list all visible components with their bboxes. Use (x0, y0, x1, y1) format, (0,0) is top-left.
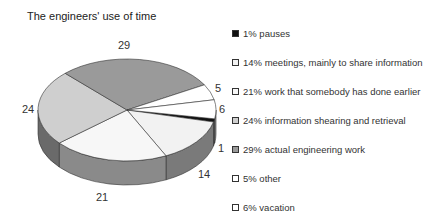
slice-label-6: 6 (219, 103, 225, 115)
slice-label-21: 21 (96, 191, 108, 203)
legend-item-pauses: 1% pauses (232, 28, 290, 39)
legend-swatch (232, 175, 239, 182)
legend-item-info-sharing: 24% information shearing and retrieval (232, 115, 406, 126)
legend-item-vacation: 6% vacation (232, 202, 295, 213)
slice-label-1: 1 (218, 142, 224, 154)
legend-swatch (232, 146, 239, 153)
pie-chart: 29 5 6 24 1 14 21 (0, 0, 230, 224)
slice-label-14: 14 (198, 168, 210, 180)
slice-label-5: 5 (215, 82, 221, 94)
legend-swatch (232, 88, 239, 95)
legend-swatch (232, 204, 239, 211)
legend-swatch (232, 117, 239, 124)
legend-item-meetings: 14% meetings, mainly to share informatio… (232, 57, 423, 68)
slice-label-29: 29 (118, 39, 130, 51)
legend-swatch (232, 30, 239, 37)
legend-item-earlier-work: 21% work that somebody has done earlier (232, 86, 420, 97)
legend-swatch (232, 59, 239, 66)
legend-item-engineering: 29% actual engineering work (232, 144, 365, 155)
legend-item-other: 5% other (232, 173, 281, 184)
slice-label-24: 24 (22, 103, 34, 115)
